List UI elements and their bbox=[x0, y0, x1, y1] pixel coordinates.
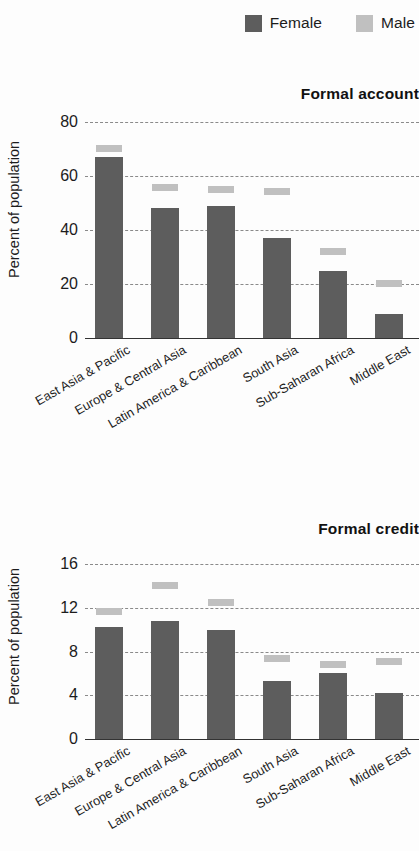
bar-group bbox=[207, 122, 235, 338]
bar-group bbox=[319, 122, 347, 338]
marker-male bbox=[96, 608, 122, 615]
marker-male bbox=[152, 582, 178, 589]
marker-male bbox=[208, 186, 234, 193]
marker-male bbox=[264, 655, 290, 662]
x-axis-line: 0 bbox=[85, 338, 419, 339]
y-axis-label-formal-account: Percent of population bbox=[6, 256, 22, 278]
marker-male bbox=[208, 599, 234, 606]
chart-legend: Female Male bbox=[0, 10, 419, 36]
bar-group bbox=[375, 122, 403, 338]
chart-title-formal-account: Formal account bbox=[301, 85, 419, 103]
bar-female bbox=[151, 208, 179, 338]
marker-male bbox=[96, 145, 122, 152]
legend-swatch-male bbox=[356, 15, 373, 32]
y-axis-label-formal-credit: Percent of population bbox=[6, 683, 22, 705]
y-tick-label: 0 bbox=[69, 730, 78, 748]
x-tick-label: Sub-Saharan Africa bbox=[253, 342, 357, 410]
x-tick-label: Middle East bbox=[347, 342, 412, 388]
bar-group bbox=[263, 122, 291, 338]
bar-female bbox=[151, 621, 179, 739]
marker-male bbox=[320, 661, 346, 668]
y-tick-label: 60 bbox=[60, 167, 78, 185]
y-tick-label: 12 bbox=[60, 599, 78, 617]
marker-male bbox=[152, 184, 178, 191]
y-tick-label: 40 bbox=[60, 221, 78, 239]
y-tick-label: 20 bbox=[60, 275, 78, 293]
chart-panel-formal-account: Formal account Percent of population 020… bbox=[0, 60, 419, 425]
marker-male bbox=[264, 188, 290, 195]
bars-formal-credit bbox=[85, 564, 419, 739]
marker-male bbox=[320, 248, 346, 255]
x-axis-line: 0 bbox=[85, 739, 419, 740]
y-tick-label: 0 bbox=[69, 329, 78, 347]
bar-female bbox=[207, 630, 235, 739]
marker-male bbox=[376, 280, 402, 287]
marker-male bbox=[376, 658, 402, 665]
plot-area-formal-account: 020406080 bbox=[85, 122, 419, 338]
bar-female bbox=[263, 238, 291, 338]
bar-female bbox=[95, 157, 123, 338]
chart-page: Female Male Formal account Percent of po… bbox=[0, 0, 419, 851]
bar-female bbox=[207, 206, 235, 338]
bar-group bbox=[319, 564, 347, 739]
bar-group bbox=[263, 564, 291, 739]
chart-title-formal-credit: Formal credit bbox=[318, 520, 419, 538]
legend-entry-male: Male bbox=[356, 14, 415, 32]
bar-group bbox=[95, 564, 123, 739]
bars-formal-account bbox=[85, 122, 419, 338]
x-axis-labels-formal-account: East Asia & PacificEurope & Central Asia… bbox=[85, 342, 419, 422]
x-tick-label: Sub-Saharan Africa bbox=[253, 743, 357, 811]
bar-female bbox=[375, 314, 403, 338]
legend-swatch-female bbox=[245, 15, 262, 32]
y-tick-label: 16 bbox=[60, 555, 78, 573]
bar-female bbox=[319, 271, 347, 339]
bar-female bbox=[319, 673, 347, 739]
bar-group bbox=[207, 564, 235, 739]
plot-area-formal-credit: 0481216 bbox=[85, 564, 419, 739]
bar-group bbox=[151, 564, 179, 739]
legend-label-male: Male bbox=[381, 14, 415, 32]
y-tick-label: 4 bbox=[69, 687, 78, 705]
bar-group bbox=[151, 122, 179, 338]
bar-group bbox=[95, 122, 123, 338]
y-tick-label: 80 bbox=[60, 113, 78, 131]
x-tick-label: Middle East bbox=[347, 743, 412, 789]
bar-group bbox=[375, 564, 403, 739]
bar-female bbox=[95, 627, 123, 739]
y-tick-label: 8 bbox=[69, 643, 78, 661]
bar-female bbox=[263, 681, 291, 739]
x-axis-labels-formal-credit: East Asia & PacificEurope & Central Asia… bbox=[85, 743, 419, 843]
legend-label-female: Female bbox=[270, 14, 322, 32]
legend-entry-female: Female bbox=[245, 14, 322, 32]
bar-female bbox=[375, 693, 403, 739]
chart-panel-formal-credit: Formal credit Percent of population 0481… bbox=[0, 495, 419, 851]
